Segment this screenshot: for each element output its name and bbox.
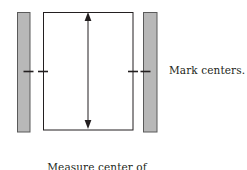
figure-caption: Measure center of quilt, top to bottom. — [38, 136, 156, 170]
caption-line-1: Measure center of — [38, 161, 156, 170]
figure-canvas: Mark centers. Measure center of quilt, t… — [0, 0, 247, 170]
mark-centers-label: Mark centers. — [169, 64, 245, 77]
